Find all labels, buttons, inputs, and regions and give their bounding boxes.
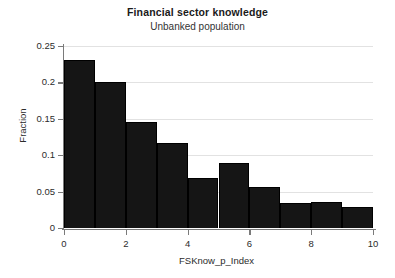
y-axis-line xyxy=(63,44,64,230)
y-tick-label: 0.05 xyxy=(10,186,55,197)
x-tick-label: 0 xyxy=(49,238,79,249)
x-tick-mark xyxy=(373,230,374,235)
x-tick-mark xyxy=(64,230,65,235)
x-tick-label: 10 xyxy=(358,238,388,249)
bar xyxy=(342,207,373,228)
x-axis-label: FSKnow_p_Index xyxy=(0,255,395,266)
chart-figure: Financial sector knowledge Unbanked popu… xyxy=(0,0,395,278)
bar xyxy=(311,202,342,228)
x-tick-label: 4 xyxy=(173,238,203,249)
y-tick-mark xyxy=(58,228,63,229)
x-tick-label: 8 xyxy=(296,238,326,249)
bar xyxy=(249,187,280,228)
page-title: Financial sector knowledge xyxy=(0,6,395,19)
y-tick-label: 0 xyxy=(10,222,55,233)
bar xyxy=(64,60,95,228)
bar xyxy=(188,178,219,228)
x-tick-mark xyxy=(249,230,250,235)
y-tick-mark xyxy=(58,82,63,83)
x-tick-label: 6 xyxy=(234,238,264,249)
gridline xyxy=(64,46,373,47)
y-axis-label: Fraction xyxy=(17,81,28,171)
y-tick-mark xyxy=(58,119,63,120)
chart-subtitle: Unbanked population xyxy=(0,20,395,33)
x-axis-line xyxy=(62,229,376,230)
y-tick-mark xyxy=(58,46,63,47)
plot-area xyxy=(64,46,373,228)
bar xyxy=(219,163,250,228)
y-tick-mark xyxy=(58,155,63,156)
x-tick-mark xyxy=(126,230,127,235)
bar xyxy=(280,203,311,228)
y-tick-label: 0.25 xyxy=(10,40,55,51)
bar xyxy=(95,82,126,228)
y-tick-mark xyxy=(58,192,63,193)
bar xyxy=(126,122,157,228)
chart-title-block: Financial sector knowledge Unbanked popu… xyxy=(0,6,395,33)
x-tick-label: 2 xyxy=(111,238,141,249)
x-tick-mark xyxy=(311,230,312,235)
x-tick-mark xyxy=(188,230,189,235)
bar xyxy=(157,143,188,228)
